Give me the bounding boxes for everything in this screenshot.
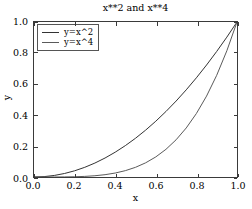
y-tick-mark [34,147,38,148]
y-tick-mark [34,178,38,179]
y-tick-mark-right [234,52,238,53]
x-tick-mark [157,174,158,178]
legend-box: y=x^2y=x^4 [37,24,99,51]
y-tick-label: 0.2 [0,141,28,152]
x-tick-mark [238,174,239,178]
x-tick-label: 0.8 [182,180,212,191]
x-tick-mark [198,174,199,178]
x-tick-label: 0.2 [59,180,89,191]
legend-line-icon [42,32,59,33]
x-tick-label: 0.6 [141,180,171,191]
y-tick-mark [34,115,38,116]
x-tick-mark [75,174,76,178]
legend-line-icon [42,42,59,43]
y-tick-label: 0.4 [0,110,28,121]
y-tick-label: 0.8 [0,47,28,58]
chart-title: x**2 and x**4 [33,2,238,14]
x-tick-mark-top [75,22,76,26]
y-tick-mark-right [234,178,238,179]
y-tick-mark [34,84,38,85]
legend-entry: y=x^2 [42,27,93,37]
y-tick-mark-right [234,115,238,116]
x-tick-mark-top [238,22,239,26]
y-tick-mark-right [234,147,238,148]
x-tick-label: 0.4 [100,180,130,191]
plot-area: y=x^2y=x^4 [33,21,238,178]
x-tick-mark-top [157,22,158,26]
y-tick-mark-right [234,22,238,23]
y-tick-mark-right [234,84,238,85]
y-tick-mark [34,22,38,23]
legend-entry: y=x^4 [42,37,93,47]
y-tick-mark [34,52,38,53]
legend-label: y=x^4 [64,37,93,47]
x-axis-label: x [33,192,238,203]
x-tick-mark [34,174,35,178]
y-tick-label: 0.0 [0,173,28,184]
x-tick-mark-top [198,22,199,26]
y-tick-label: 0.6 [0,78,28,89]
y-tick-label: 1.0 [0,16,28,27]
figure-canvas: x**2 and x**4 y=x^2y=x^4 x y 0.00.20.40.… [0,0,252,209]
x-tick-mark-top [116,22,117,26]
x-tick-label: 1.0 [223,180,252,191]
legend-label: y=x^2 [64,27,93,37]
x-tick-mark [116,174,117,178]
